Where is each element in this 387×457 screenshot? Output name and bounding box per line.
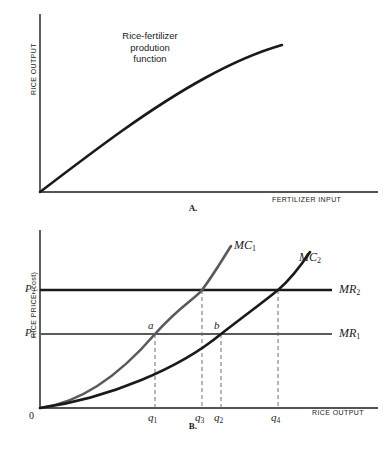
point-label-a: a bbox=[148, 319, 154, 331]
panel-b-origin-label: 0 bbox=[29, 410, 34, 421]
mc2-curve bbox=[40, 252, 310, 408]
quantity-tick-q2: q2 bbox=[214, 411, 223, 423]
price-tick-p1: P1 bbox=[25, 326, 35, 338]
mr1-label: MR1 bbox=[339, 326, 360, 341]
production-function-curve bbox=[40, 45, 282, 192]
mc1-label: MC1 bbox=[234, 238, 256, 253]
panel-b-x-axis-label: RICE OUTPUT bbox=[312, 409, 364, 416]
mc2-label: MC2 bbox=[299, 250, 321, 265]
price-tick-p2: P2 bbox=[25, 282, 35, 294]
mr2-label: MR2 bbox=[339, 282, 360, 297]
panel-a-caption: A. bbox=[173, 203, 213, 213]
panel-a-y-axis-label: RICE OUTPUT bbox=[30, 43, 37, 95]
quantity-tick-q1: q1 bbox=[148, 411, 157, 423]
panel-b-caption: B. bbox=[173, 421, 213, 431]
panel-a-x-axis-label: FERTILIZER INPUT bbox=[272, 196, 341, 203]
economics-figure: RICE OUTPUT FERTILIZER INPUT Rice-fertil… bbox=[0, 0, 387, 457]
production-function-annotation: Rice-fertilizer prodution function bbox=[95, 30, 205, 65]
panel-a-production-function: RICE OUTPUT FERTILIZER INPUT Rice-fertil… bbox=[0, 0, 387, 218]
panel-b-marginal-cost-revenue: RICE PRICE (cost) RICE OUTPUT P2 P1 q1 q… bbox=[0, 218, 387, 457]
quantity-tick-q4: q4 bbox=[271, 411, 280, 423]
point-label-b: b bbox=[214, 319, 220, 331]
